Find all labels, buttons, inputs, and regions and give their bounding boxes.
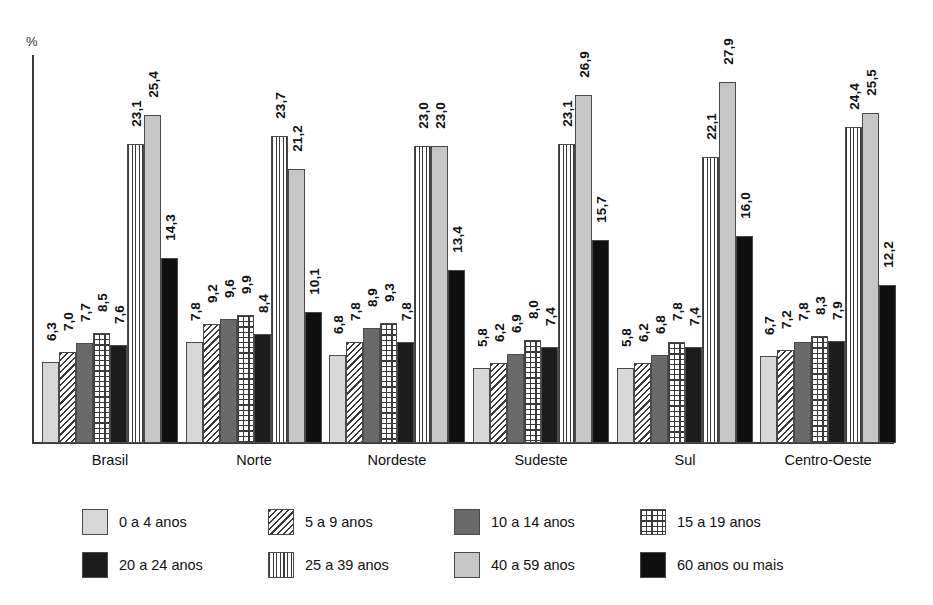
legend-label: 15 a 19 anos: [677, 514, 761, 530]
legend-label: 20 a 24 anos: [119, 557, 203, 573]
bar-slot: 8,3: [811, 55, 828, 443]
bar-value-label: 7,0: [60, 313, 75, 332]
bar-value-label: 6,2: [491, 323, 506, 342]
legend-item[interactable]: 5 a 9 anos: [268, 509, 454, 535]
bar-slot: 9,6: [220, 55, 237, 443]
bar: [346, 342, 363, 443]
bar-value-label: 23,0: [415, 102, 430, 128]
bar-slot: 14,3: [161, 55, 178, 443]
bar: [161, 258, 178, 443]
bar-slot: 16,0: [736, 55, 753, 443]
legend-item[interactable]: 40 a 59 anos: [454, 552, 640, 578]
bar-value-label: 7,9: [829, 301, 844, 320]
bar: [203, 324, 220, 443]
bar: [431, 146, 448, 443]
bar: [127, 144, 144, 443]
bar: [794, 342, 811, 443]
bar: [524, 340, 541, 443]
bar: [811, 336, 828, 443]
bar-value-label: 24,4: [846, 84, 861, 110]
bar-slot: 6,8: [329, 55, 346, 443]
bar-slot: 9,2: [203, 55, 220, 443]
bar-value-label: 23,1: [128, 101, 143, 127]
bar-value-label: 16,0: [737, 192, 752, 218]
legend-item[interactable]: 10 a 14 anos: [454, 509, 640, 535]
bar-slot: 8,5: [93, 55, 110, 443]
bar-slot: 7,8: [186, 55, 203, 443]
bar-value-label: 8,9: [364, 288, 379, 307]
bar: [329, 355, 346, 443]
bar: [490, 363, 507, 443]
bar: [473, 368, 490, 443]
bar-value-label: 25,4: [145, 71, 160, 97]
bar-slot: 6,2: [634, 55, 651, 443]
bar: [777, 350, 794, 443]
bar-value-label: 9,2: [204, 284, 219, 303]
bar-value-label: 5,8: [618, 328, 633, 347]
bar: [186, 342, 203, 443]
bar-slot: 7,8: [794, 55, 811, 443]
bar-slot: 7,6: [110, 55, 127, 443]
bar-value-label: 23,1: [559, 101, 574, 127]
legend-label: 40 a 59 anos: [491, 557, 575, 573]
legend-swatch: [82, 509, 108, 535]
legend-item[interactable]: 25 a 39 anos: [268, 552, 454, 578]
x-axis-category-label: Nordeste: [327, 452, 467, 468]
bar-value-label: 23,7: [272, 93, 287, 119]
bar: [144, 115, 161, 444]
bar: [617, 368, 634, 443]
bar-slot: 7,8: [397, 55, 414, 443]
bar: [592, 240, 609, 443]
bar-slot: 9,3: [380, 55, 397, 443]
bar: [575, 95, 592, 443]
bar: [760, 356, 777, 443]
bar: [634, 363, 651, 443]
bar: [879, 285, 896, 443]
bar: [719, 82, 736, 443]
bar-value-label: 7,6: [111, 305, 126, 324]
legend-swatch: [640, 552, 666, 578]
bar-group: 5,86,26,98,07,423,126,915,7: [473, 55, 609, 443]
bar-slot: 8,0: [524, 55, 541, 443]
bar: [685, 347, 702, 443]
bar-slot: 15,7: [592, 55, 609, 443]
bar: [220, 319, 237, 443]
bar-slot: 6,7: [760, 55, 777, 443]
bar-slot: 5,8: [617, 55, 634, 443]
bar: [702, 157, 719, 443]
legend-item[interactable]: 20 a 24 anos: [82, 552, 268, 578]
legend-swatch: [268, 509, 294, 535]
bar-value-label: 9,9: [238, 275, 253, 294]
bar: [305, 312, 322, 443]
bar-value-label: 6,8: [330, 315, 345, 334]
bar-value-label: 14,3: [162, 214, 177, 240]
bar: [42, 362, 59, 443]
bar-group: 7,89,29,69,98,423,721,210,1: [186, 55, 322, 443]
bar-value-label: 7,8: [187, 302, 202, 321]
bar-value-label: 27,9: [720, 39, 735, 65]
bar-value-label: 8,4: [255, 294, 270, 313]
bar-value-label: 12,2: [880, 242, 895, 268]
legend-swatch: [454, 509, 480, 535]
legend-item[interactable]: 15 a 19 anos: [640, 509, 826, 535]
x-axis-category-label: Sul: [615, 452, 755, 468]
bar-slot: 12,2: [879, 55, 896, 443]
bar-value-label: 5,8: [474, 328, 489, 347]
bar-slot: 23,1: [558, 55, 575, 443]
bar-slot: 22,1: [702, 55, 719, 443]
bar-value-label: 6,3: [43, 322, 58, 341]
legend-label: 10 a 14 anos: [491, 514, 575, 530]
bar: [93, 333, 110, 443]
bar-group: 6,37,07,78,57,623,125,414,3: [42, 55, 178, 443]
legend-item[interactable]: 0 a 4 anos: [82, 509, 268, 535]
bar-slot: 5,8: [473, 55, 490, 443]
bar-value-label: 6,7: [761, 316, 776, 335]
bar-slot: 24,4: [845, 55, 862, 443]
legend-item[interactable]: 60 anos ou mais: [640, 552, 826, 578]
bar-slot: 10,1: [305, 55, 322, 443]
bar-group: 5,86,26,87,87,422,127,916,0: [617, 55, 753, 443]
bar-slot: 23,0: [431, 55, 448, 443]
bar-slot: 7,9: [828, 55, 845, 443]
bar: [363, 328, 380, 443]
bar-slot: 23,7: [271, 55, 288, 443]
